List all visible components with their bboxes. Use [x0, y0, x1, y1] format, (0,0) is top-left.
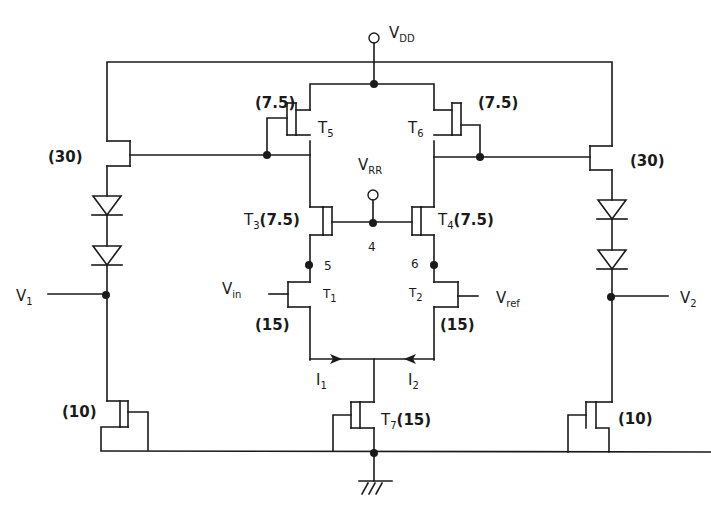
t3-label: T3(7.5)	[243, 211, 300, 231]
node-4-dot	[369, 219, 377, 227]
t1-size-label: (15)	[255, 316, 290, 334]
node-6-label: 6	[411, 257, 419, 271]
t7-label: T7(15)	[380, 411, 431, 431]
vrr-label: VRR	[358, 156, 382, 176]
t4-label: T4(7.5)	[437, 211, 494, 231]
node-5-label: 5	[324, 259, 332, 273]
node-4-label: 4	[368, 240, 376, 254]
v1-label: V1	[16, 287, 33, 307]
transistor-t7	[333, 402, 374, 451]
vdd-terminal	[369, 33, 379, 84]
t6-size-label: (7.5)	[478, 94, 518, 112]
ground-rail	[101, 451, 711, 452]
right-diode-chain	[597, 200, 627, 402]
outer-top-rail	[107, 62, 612, 146]
right-load-size-label: (10)	[618, 410, 653, 428]
vref-label: Vref	[496, 289, 520, 309]
circuit-schematic: VDD (7.5) T5 (7.5) T6 (30)	[0, 0, 711, 517]
vrr-terminal	[368, 190, 378, 222]
transistor-t6	[434, 103, 480, 207]
i1-label: I1	[316, 371, 327, 391]
v1-output	[48, 291, 110, 299]
left-follower-size-label: (30)	[48, 148, 83, 166]
right-follower-transistor	[434, 146, 612, 200]
left-load-transistor	[101, 401, 148, 450]
t1-label: T1	[322, 287, 337, 304]
i2-label: I2	[408, 371, 419, 391]
t6-label: T6	[407, 119, 424, 139]
v2-output	[607, 293, 668, 301]
right-load-transistor	[568, 402, 612, 452]
vdd-junction-dot	[370, 80, 378, 88]
ground-icon	[359, 453, 392, 494]
v2-label: V2	[680, 289, 697, 309]
t5-label: T5	[317, 119, 334, 139]
right-follower-size-label: (30)	[630, 152, 665, 170]
node-5-dot	[305, 261, 313, 269]
left-follower-transistor	[107, 141, 310, 196]
t2-size-label: (15)	[440, 316, 475, 334]
t2-label: T2	[408, 286, 423, 303]
inner-top-rail	[310, 84, 434, 110]
t5-size-label: (7.5)	[255, 94, 295, 112]
vdd-label: VDD	[389, 24, 415, 44]
node-6-dot	[430, 261, 438, 269]
vin-label: Vin	[222, 280, 241, 300]
left-load-size-label: (10)	[62, 403, 97, 421]
